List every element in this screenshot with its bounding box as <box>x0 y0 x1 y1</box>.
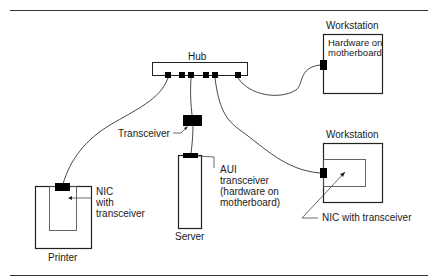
printer-nic-label-line3: transceiver <box>96 208 145 219</box>
workstation-top-connector <box>320 60 327 70</box>
cable-transceiver-server <box>191 126 193 154</box>
workstation-bottom-label: Workstation <box>326 129 379 140</box>
aui-label-line3: (hardware on <box>220 186 279 197</box>
printer-connector <box>55 183 70 191</box>
transceiver-block <box>183 115 202 126</box>
server-box <box>179 156 202 229</box>
printer-nic-label-line2: with <box>96 197 114 208</box>
aui-label-line2: transceiver <box>220 175 269 186</box>
cable-hub-transceiver <box>191 78 192 115</box>
cable-hub-workstation-bottom <box>215 78 320 173</box>
workstation-bottom-box <box>324 144 383 203</box>
workstation-nic-label: NIC with transceiver <box>322 212 411 223</box>
server-label: Server <box>175 231 204 242</box>
workstation-top-inner-line2: motherboard <box>328 48 382 59</box>
aui-label-line4: motherboard) <box>220 197 280 208</box>
printer-label: Printer <box>48 252 77 263</box>
cable-hub-workstation-top <box>238 65 320 95</box>
printer-box <box>36 187 92 249</box>
server-aui-connector <box>183 153 198 158</box>
workstation-top-label: Workstation <box>326 20 379 31</box>
workstation-bottom-connector <box>320 168 327 178</box>
transceiver-label: Transceiver <box>118 128 170 139</box>
aui-label-line1: AUI <box>220 164 237 175</box>
printer-nic-label-line1: NIC <box>96 186 113 197</box>
hub-label: Hub <box>188 51 206 62</box>
